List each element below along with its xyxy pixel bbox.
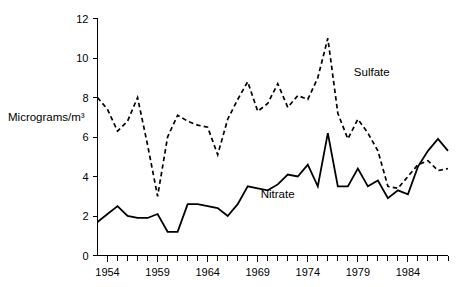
chart-canvas: 024681012 1954195919641969197419791984 M… <box>0 0 457 287</box>
x-axis-tick-labels: 1954195919641969197419791984 <box>95 266 420 278</box>
y-axis-tick-labels: 024681012 <box>76 13 88 262</box>
x-tick-label: 1974 <box>296 266 320 278</box>
x-tick-label: 1954 <box>95 266 119 278</box>
x-axis: 1954195919641969197419791984 <box>95 256 448 278</box>
y-tick-label: 12 <box>76 13 88 25</box>
series-line-nitrate <box>98 133 449 232</box>
series-label-nitrate: Nitrate <box>261 188 295 200</box>
y-axis-ticks <box>93 19 98 256</box>
y-tick-label: 10 <box>76 52 88 64</box>
x-tick-label: 1979 <box>346 266 370 278</box>
x-tick-label: 1969 <box>245 266 269 278</box>
line-chart: 024681012 1954195919641969197419791984 M… <box>0 0 457 287</box>
y-tick-label: 6 <box>82 131 88 143</box>
y-tick-label: 0 <box>82 250 88 262</box>
x-axis-ticks <box>108 256 448 262</box>
x-tick-label: 1964 <box>195 266 219 278</box>
y-axis: 024681012 <box>76 13 97 262</box>
series-group <box>98 38 449 232</box>
y-tick-label: 8 <box>82 92 88 104</box>
y-tick-label: 2 <box>82 210 88 222</box>
x-tick-label: 1959 <box>145 266 169 278</box>
series-annotations: SulfateNitrate <box>261 66 390 200</box>
series-line-sulfate <box>98 38 449 196</box>
series-label-sulfate: Sulfate <box>354 66 390 78</box>
y-axis-title: Micrograms/m³ <box>8 111 85 123</box>
x-tick-label: 1984 <box>396 266 420 278</box>
y-tick-label: 4 <box>82 171 88 183</box>
